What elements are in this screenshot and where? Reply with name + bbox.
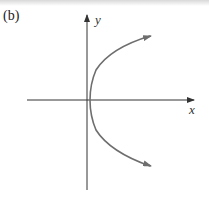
curve-arrow-top	[144, 36, 151, 38]
x-axis-label: x	[189, 102, 195, 118]
graph	[0, 0, 209, 198]
parabola-curve	[90, 36, 150, 166]
y-axis-label: y	[95, 12, 101, 28]
figure-canvas: (b) y x	[0, 0, 209, 198]
